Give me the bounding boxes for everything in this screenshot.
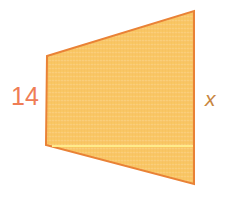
trapezoid-shape [46,11,194,184]
side-length-label-right: x [205,88,216,109]
geometry-figure-canvas: 14 x [0,0,228,197]
side-length-label-left: 14 [11,84,39,109]
